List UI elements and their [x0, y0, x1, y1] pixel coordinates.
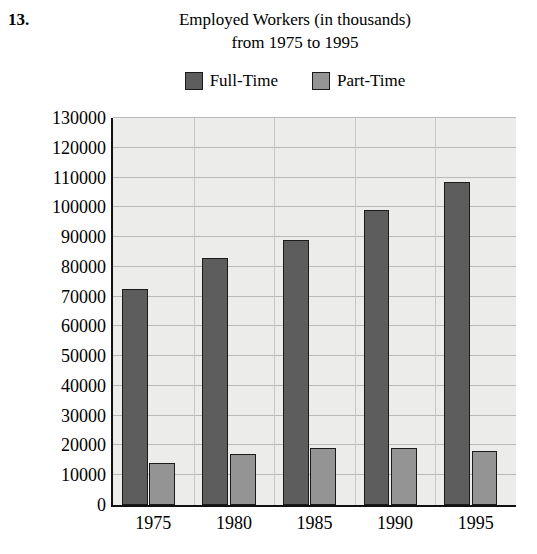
bar-group-1990	[355, 118, 436, 505]
chart-title-line-1: Employed Workers (in thousands)	[60, 8, 530, 31]
y-tick-50000: 50000	[0, 347, 106, 365]
bar-1995-part-time[interactable]	[472, 451, 498, 505]
legend-item-full-time[interactable]: Full-Time	[185, 72, 278, 90]
x-tick-1980: 1980	[194, 512, 275, 542]
chart-title-line-2: from 1975 to 1995	[60, 31, 530, 54]
y-tick-110000: 110000	[0, 169, 106, 187]
y-tick-10000: 10000	[0, 466, 106, 484]
y-tick-120000: 120000	[0, 139, 106, 157]
bar-chart-figure: Employed Workers (in thousands) from 197…	[0, 0, 537, 554]
bar-1980-part-time[interactable]	[230, 454, 256, 505]
chart-title: Employed Workers (in thousands) from 197…	[60, 8, 530, 54]
y-tick-40000: 40000	[0, 377, 106, 395]
legend-swatch-part-time	[312, 72, 330, 90]
y-axis-tick-labels: 0100002000030000400005000060000700008000…	[0, 118, 106, 507]
x-axis-tick-labels: 19751980198519901995	[113, 512, 516, 542]
y-tick-80000: 80000	[0, 258, 106, 276]
bar-1995-full-time[interactable]	[444, 182, 470, 505]
bar-1990-part-time[interactable]	[391, 448, 417, 505]
y-tick-60000: 60000	[0, 317, 106, 335]
legend-label-full-time: Full-Time	[210, 72, 278, 90]
legend-item-part-time[interactable]: Part-Time	[312, 72, 405, 90]
y-tick-70000: 70000	[0, 288, 106, 306]
bar-group-1975	[113, 118, 194, 505]
bar-1975-part-time[interactable]	[149, 463, 175, 505]
bar-group-1995	[435, 118, 516, 505]
bar-group-1985	[274, 118, 355, 505]
x-tick-1995: 1995	[435, 512, 516, 542]
chart-legend: Full-Time Part-Time	[60, 72, 530, 90]
x-tick-1975: 1975	[113, 512, 194, 542]
x-tick-1990: 1990	[355, 512, 436, 542]
y-tick-90000: 90000	[0, 228, 106, 246]
y-tick-100000: 100000	[0, 198, 106, 216]
y-tick-0: 0	[0, 496, 106, 514]
legend-swatch-full-time	[185, 72, 203, 90]
bar-1990-full-time[interactable]	[364, 210, 390, 505]
y-tick-20000: 20000	[0, 436, 106, 454]
bar-1975-full-time[interactable]	[122, 289, 148, 505]
y-tick-130000: 130000	[0, 109, 106, 127]
bar-1985-part-time[interactable]	[310, 448, 336, 505]
bar-groups	[113, 118, 516, 505]
bar-group-1980	[194, 118, 275, 505]
x-tick-1985: 1985	[274, 512, 355, 542]
y-tick-30000: 30000	[0, 407, 106, 425]
legend-label-part-time: Part-Time	[337, 72, 405, 90]
bar-1985-full-time[interactable]	[283, 240, 309, 505]
bar-1980-full-time[interactable]	[202, 258, 228, 505]
